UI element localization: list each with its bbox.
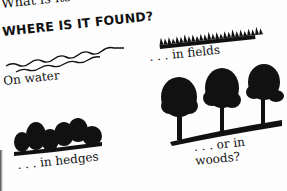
section-heading: WHERE IS IT FOUND? [1, 8, 154, 39]
page-edge-shadow [0, 150, 3, 191]
book-page: What is its ca WHERE IS IT FOUND? On wat… [0, 0, 287, 191]
water-waves-icon [4, 48, 124, 73]
top-cut-text: What is its ca [0, 0, 90, 11]
